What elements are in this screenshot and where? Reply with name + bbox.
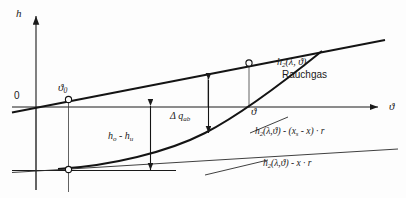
low-curve-label: h2(λ,ϑ) - x · r (263, 159, 312, 169)
top-curve-subscript: 2 (282, 61, 286, 69)
theta-tick-label: ϑ (251, 106, 256, 117)
low-curve-leader (205, 160, 268, 175)
enthalpy-temperature-diagram (0, 0, 406, 198)
low-curve-arguments: (λ,ϑ) - x · r (271, 158, 311, 168)
marker-theta0-top (65, 96, 71, 102)
mid-curve-subscript: 2 (260, 130, 263, 137)
delta-q-subscript: ab (183, 115, 190, 123)
origin-label: 0 (14, 91, 20, 101)
theta-zero-label: ϑ0 (58, 82, 67, 93)
top-curve-label: h2(λ, ϑ) (277, 57, 306, 67)
mid-curve-arguments: (λ,ϑ) - (x (263, 126, 296, 136)
h-upper-subscript: o (113, 135, 117, 143)
h-difference-operator: - h (117, 130, 130, 141)
h-difference-label: ho - hu (108, 131, 133, 141)
mid-curve-label: h2(λ,ϑ) - (xs - x) · r (255, 127, 325, 137)
top-curve-arguments: (λ, ϑ) (286, 56, 307, 67)
y-axis-label: h (16, 8, 22, 19)
diagram-root: h ϑ 0 ϑ0 ϑ Δ qab ho - hu h2(λ, ϑ) Rauchg… (0, 0, 406, 198)
mid-curve-tail: - x) · r (298, 126, 324, 136)
theta-zero-subscript: 0 (63, 86, 67, 95)
marker-theta-top (246, 60, 252, 66)
delta-q-symbol: Δ q (170, 110, 183, 121)
low-curve-subscript: 2 (268, 162, 271, 169)
marker-theta0-bottom (65, 166, 71, 172)
h-lower-subscript: u (130, 135, 134, 143)
delta-q-label: Δ qab (170, 111, 190, 121)
rauchgas-caption: Rauchgas (282, 70, 327, 80)
x-axis-label: ϑ (389, 101, 394, 112)
